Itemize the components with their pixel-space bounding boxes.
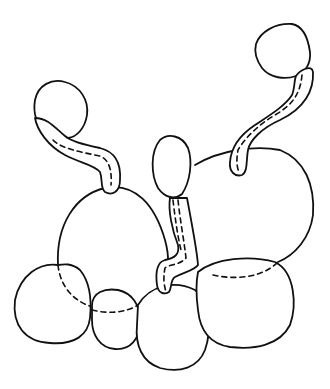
blob-bottom-small (92, 290, 140, 350)
large-blob-center-left (58, 187, 168, 275)
blob-bottom-right (197, 258, 294, 347)
linker-center (156, 198, 198, 293)
blob-bottom-left (15, 264, 91, 343)
large-blob-right (195, 148, 313, 262)
small-blob-center (153, 136, 191, 197)
diagram-canvas (0, 0, 330, 389)
